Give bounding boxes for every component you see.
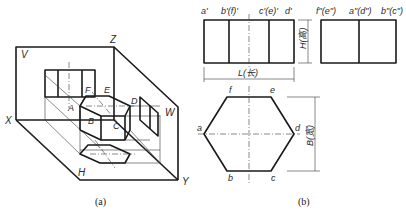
front-label-ce: c'(e)' xyxy=(259,6,278,16)
projector-line xyxy=(45,75,80,106)
top-label-b: b xyxy=(228,173,233,183)
label-point-a: A xyxy=(67,103,74,113)
projector-line xyxy=(45,120,80,154)
v-plane-outline xyxy=(16,47,114,120)
label-point-c: C xyxy=(113,121,120,131)
projector-line xyxy=(26,129,74,174)
label-v-plane: V xyxy=(21,49,29,60)
top-label-d: d xyxy=(295,123,301,133)
side-label-fe: f"(e") xyxy=(316,6,336,16)
label-w-plane: W xyxy=(165,107,176,118)
dim-width-label: B(宽) xyxy=(305,125,315,146)
side-label-bc: b"(c") xyxy=(381,6,403,16)
top-label-a: a xyxy=(197,123,202,133)
front-label-d: d' xyxy=(285,6,292,16)
label-h-plane: H xyxy=(78,167,86,178)
label-z-axis: Z xyxy=(109,34,117,45)
caption-a: (a) xyxy=(95,196,106,208)
projector-line xyxy=(130,130,160,163)
label-x-axis: X xyxy=(4,115,12,126)
label-y-axis: Y xyxy=(182,176,190,187)
top-label-f: f xyxy=(229,85,233,95)
dim-length-label: L(长) xyxy=(238,68,258,78)
label-point-b: B xyxy=(88,116,94,126)
label-point-e: E xyxy=(104,85,111,95)
figure-a-pictorial: V Z W X Y H A B C D E F (a) xyxy=(4,34,190,208)
figure-b-orthographic: a' b'(f)' c'(e)' d' H(高) L(长) f"(e") a"(… xyxy=(197,6,403,208)
hexagonal-prism-projection-figure: V Z W X Y H A B C D E F (a) a' b'(f)' c'… xyxy=(0,0,406,213)
front-label-a: a' xyxy=(201,6,208,16)
top-label-e: e xyxy=(270,85,275,95)
label-point-d: D xyxy=(131,96,138,106)
top-label-c: c xyxy=(271,173,276,183)
side-label-ad: a"(d") xyxy=(349,6,371,16)
caption-b: (b) xyxy=(298,196,310,208)
label-point-f: F xyxy=(85,85,91,95)
prism-bottom-edges xyxy=(80,130,130,140)
w-projection xyxy=(140,97,158,136)
dim-height-label: H(高) xyxy=(298,28,308,50)
front-label-bf: b'(f)' xyxy=(221,6,238,16)
